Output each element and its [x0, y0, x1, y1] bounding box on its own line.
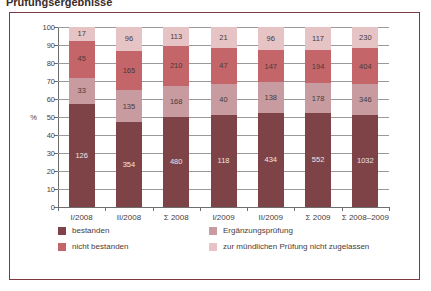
figure-title-cropped: Prüfungsergebnisse: [0, 0, 431, 12]
legend-item-nicht-bestanden: nicht bestanden: [58, 242, 209, 251]
bar-segment: 346: [352, 84, 378, 115]
bar-segment: 178: [305, 83, 331, 113]
bar-segment: 147: [258, 50, 284, 82]
x-category-label: Σ 2008–2009: [342, 213, 389, 222]
x-tick-mark: [200, 207, 201, 211]
bar-segment: 210: [163, 46, 189, 85]
legend-swatch-ergaenzungspruefung: [209, 227, 217, 235]
bar-value-label: 118: [218, 157, 230, 165]
bar-value-label: 1032: [357, 157, 374, 165]
y-tick-label: 20: [31, 167, 55, 176]
bar-value-label: 17: [77, 30, 85, 38]
x-axis-line: [58, 207, 389, 208]
legend-label-nicht-bestanden: nicht bestanden: [72, 242, 129, 251]
bar-segment: 165: [116, 51, 142, 90]
bar-segment: 354: [116, 122, 142, 207]
bar-value-label: 210: [170, 62, 183, 70]
bar-segment: 1032: [352, 115, 378, 207]
legend-swatch-bestanden: [58, 227, 66, 235]
y-tick-label: 60: [31, 95, 55, 104]
x-tick-mark: [58, 207, 59, 211]
legend-item-bestanden: bestanden: [58, 226, 209, 235]
legend-swatch-nicht-bestanden: [58, 243, 66, 251]
bar-value-label: 434: [265, 156, 278, 164]
legend-label-nicht-zugelassen: zur mündlichen Prüfung nicht zugelassen: [223, 242, 369, 251]
legend-item-ergaenzungspruefung: Ergänzungsprüfung: [209, 226, 408, 235]
x-tick-mark: [247, 207, 248, 211]
bar-value-label: 47: [219, 62, 227, 70]
bar-value-label: 21: [219, 34, 227, 42]
bar-value-label: 113: [170, 33, 182, 41]
plot-area: 0102030405060708090100%126334517I/200835…: [58, 27, 389, 207]
x-tick-mark: [105, 207, 106, 211]
bar-segment: 96: [258, 27, 284, 50]
y-tick-label: 30: [31, 149, 55, 158]
bar-segment: 47: [211, 48, 237, 85]
x-category-label: II/2008: [117, 213, 141, 222]
legend-row-1: bestanden Ergänzungsprüfung: [58, 226, 408, 235]
legend-label-bestanden: bestanden: [72, 226, 109, 235]
y-tick-label: 40: [31, 131, 55, 140]
bar-segment: 45: [69, 41, 95, 78]
x-tick-mark: [342, 207, 343, 211]
bar-value-label: 33: [77, 87, 85, 95]
x-tick-mark: [153, 207, 154, 211]
y-tick-label: 90: [31, 41, 55, 50]
bar-value-label: 194: [312, 63, 325, 71]
bar-column: 552178194117: [305, 27, 331, 207]
x-category-label: Σ 2008: [164, 213, 189, 222]
bar-segment: 40: [211, 84, 237, 115]
bar-value-label: 126: [75, 152, 88, 160]
bar-value-label: 230: [359, 34, 372, 42]
x-tick-mark: [294, 207, 295, 211]
bar-value-label: 168: [170, 98, 183, 106]
y-tick-label: 10: [31, 185, 55, 194]
bar-segment: 194: [305, 50, 331, 83]
bar-segment: 404: [352, 48, 378, 84]
y-tick-label: 80: [31, 59, 55, 68]
bar-value-label: 40: [219, 96, 227, 104]
bar-value-label: 117: [312, 35, 324, 43]
bar-column: 35413516596: [116, 27, 142, 207]
bar-segment: 230: [352, 27, 378, 48]
y-tick-label: 100: [31, 23, 55, 32]
bar-value-label: 96: [267, 35, 275, 43]
bar-segment: 480: [163, 117, 189, 207]
bar-value-label: 480: [170, 158, 183, 166]
chart-frame: 0102030405060708090100%126334517I/200835…: [9, 12, 420, 280]
bar-segment: 117: [305, 27, 331, 50]
y-tick-label: 70: [31, 77, 55, 86]
bar-segment: 17: [69, 27, 95, 41]
bar-value-label: 165: [123, 67, 136, 75]
bar-value-label: 404: [359, 63, 372, 71]
bar-segment: 168: [163, 86, 189, 118]
legend-row-2: nicht bestanden zur mündlichen Prüfung n…: [58, 242, 408, 251]
legend-item-nicht-zugelassen: zur mündlichen Prüfung nicht zugelassen: [209, 242, 408, 251]
bar-segment: 33: [69, 78, 95, 105]
bar-column: 1032346404230: [352, 27, 378, 207]
bar-segment: 552: [305, 113, 331, 207]
bar-value-label: 45: [77, 55, 85, 63]
bar-column: 43413814796: [258, 27, 284, 207]
figure-title-text: Prüfungsergebnisse: [6, 0, 431, 8]
bar-column: 126334517: [69, 27, 95, 207]
bar-segment: 96: [116, 27, 142, 51]
bar-value-label: 354: [123, 161, 136, 169]
x-category-label: I/2009: [212, 213, 234, 222]
legend-swatch-nicht-zugelassen: [209, 243, 217, 251]
bar-segment: 138: [258, 82, 284, 112]
bar-segment: 118: [211, 115, 237, 207]
bar-value-label: 135: [123, 103, 136, 111]
bar-segment: 21: [211, 27, 237, 48]
bar-value-label: 138: [265, 94, 278, 102]
legend-label-ergaenzungspruefung: Ergänzungsprüfung: [223, 226, 293, 235]
bar-value-label: 96: [125, 35, 133, 43]
bar-column: 480168210113: [163, 27, 189, 207]
bar-segment: 434: [258, 113, 284, 208]
chart-legend: bestanden Ergänzungsprüfung nicht bestan…: [58, 226, 408, 258]
bar-value-label: 178: [312, 95, 325, 103]
bar-value-label: 346: [359, 96, 372, 104]
y-tick-label: 0: [31, 203, 55, 212]
figure-stacked-bar-chart: Prüfungsergebnisse 010203040506070809010…: [0, 0, 431, 291]
x-tick-mark: [389, 207, 390, 211]
